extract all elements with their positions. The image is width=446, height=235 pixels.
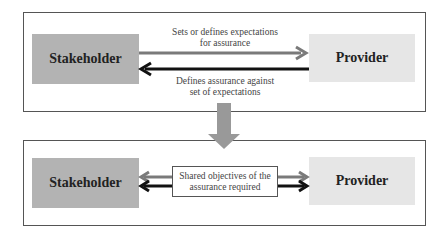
arrow-left-icon (141, 63, 309, 75)
down-arrow-icon (208, 103, 240, 149)
bidirectional-arrows-right-icon (278, 172, 307, 191)
arrow-right-icon (139, 47, 306, 59)
bidirectional-arrows-left-icon (141, 172, 172, 191)
arrows-layer (0, 0, 446, 235)
